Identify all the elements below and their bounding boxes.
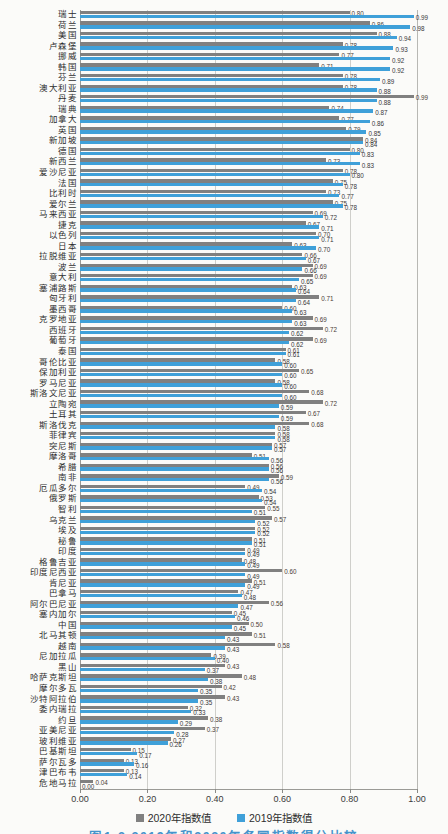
bar-2019-value-label: 0.88 xyxy=(379,100,391,104)
bar-2020-value-label: 0.67 xyxy=(308,412,320,416)
bar-2019 xyxy=(80,236,319,239)
country-label: 塞浦路斯 xyxy=(2,285,77,292)
bar-2019-value-label: 0.38 xyxy=(210,679,222,683)
bar-2019 xyxy=(80,46,393,49)
country-label: 乌克兰 xyxy=(2,517,77,524)
bar-2019 xyxy=(80,246,316,249)
country-label: 委内瑞拉 xyxy=(2,706,77,713)
chart-row: 巴拿马0.470.48 xyxy=(80,589,417,600)
bar-2019 xyxy=(80,636,225,639)
country-label: 斯洛伐克 xyxy=(2,422,77,429)
bar-2020-value-label: 0.04 xyxy=(95,780,107,784)
country-label: 墨西哥 xyxy=(2,306,77,313)
country-label: 阿尔巴尼亚 xyxy=(2,601,77,608)
chart-row: 意大利0.690.65 xyxy=(80,273,417,284)
chart-row: 马来西亚0.690.72 xyxy=(80,210,417,221)
bar-2019 xyxy=(80,130,366,133)
bar-2019-value-label: 0.99 xyxy=(416,16,428,20)
bar-2019-value-label: 0.60 xyxy=(284,395,296,399)
chart-row: 爱沙尼亚0.780.80 xyxy=(80,168,417,179)
bar-2019 xyxy=(80,404,279,407)
country-label: 新加坡 xyxy=(2,137,77,144)
bar-2020-value-label: 0.71 xyxy=(321,296,333,300)
bar-2019 xyxy=(80,720,178,723)
bar-2019 xyxy=(80,109,373,112)
bar-2019 xyxy=(80,657,215,660)
bar-2020-value-label: 0.57 xyxy=(274,517,286,521)
chart-row: 斯洛文尼亚0.680.60 xyxy=(80,389,417,400)
x-tick xyxy=(282,789,283,793)
bar-2019 xyxy=(80,99,377,102)
bar-2019 xyxy=(80,383,282,386)
bar-2019 xyxy=(80,583,245,586)
country-label: 约旦 xyxy=(2,717,77,724)
chart-row: 黑山0.430.37 xyxy=(80,663,417,674)
gridline-1.00 xyxy=(417,10,418,789)
country-label: 泰国 xyxy=(2,348,77,355)
bar-2019-value-label: 0.87 xyxy=(375,111,387,115)
bar-2020-value-label: 0.68 xyxy=(311,422,323,426)
chart-row: 俄罗斯0.530.54 xyxy=(80,494,417,505)
bar-2020-value-label: 0.68 xyxy=(311,391,323,395)
bar-2019 xyxy=(80,162,360,165)
chart-row: 亚美尼亚0.370.28 xyxy=(80,726,417,737)
bar-2019 xyxy=(80,415,279,418)
chart-row: 泰国0.610.61 xyxy=(80,347,417,358)
bar-2019 xyxy=(80,478,269,481)
x-tick xyxy=(215,789,216,793)
country-label: 罗马尼亚 xyxy=(2,380,77,387)
bar-2019 xyxy=(80,288,296,291)
bar-2019 xyxy=(80,773,127,776)
country-label: 印度 xyxy=(2,548,77,555)
chart-row: 斯洛伐克0.680.58 xyxy=(80,421,417,432)
country-label: 希腊 xyxy=(2,464,77,471)
bar-2019 xyxy=(80,646,225,649)
bar-2019-value-label: 0.83 xyxy=(362,153,374,157)
chart-row: 北马其顿0.510.43 xyxy=(80,631,417,642)
chart-row: 印度尼西亚0.600.49 xyxy=(80,568,417,579)
country-label: 克罗地亚 xyxy=(2,316,77,323)
bar-2019 xyxy=(80,615,235,618)
chart-row: 越南0.580.43 xyxy=(80,642,417,653)
chart-row: 墨西哥0.600.63 xyxy=(80,305,417,316)
country-label: 意大利 xyxy=(2,274,77,281)
country-label: 芬兰 xyxy=(2,74,77,81)
chart-row: 希腊0.560.56 xyxy=(80,463,417,474)
country-label: 埃及 xyxy=(2,527,77,534)
chart-row: 乌克兰0.570.52 xyxy=(80,516,417,527)
country-label: 尼加拉瓜 xyxy=(2,653,77,660)
bar-2019-value-label: 0.14 xyxy=(129,774,141,778)
chart-row: 加拿大0.770.86 xyxy=(80,115,417,126)
country-label: 越南 xyxy=(2,643,77,650)
x-tick xyxy=(417,789,418,793)
bar-2019 xyxy=(80,67,390,70)
country-label: 澳大利亚 xyxy=(2,85,77,92)
chart-row: 突尼斯0.570.57 xyxy=(80,442,417,453)
bar-2020-value-label: 0.72 xyxy=(325,328,337,332)
bar-2019-value-label: 0.70 xyxy=(318,248,330,252)
bar-2019-value-label: 0.78 xyxy=(345,205,357,209)
bar-2019 xyxy=(80,678,208,681)
bar-2020-value-label: 0.48 xyxy=(244,675,256,679)
bar-2019 xyxy=(80,394,282,397)
country-label: 印度尼西亚 xyxy=(2,569,77,576)
country-label: 西班牙 xyxy=(2,327,77,334)
bar-2019-value-label: 0.86 xyxy=(372,121,384,125)
chart-row: 瑞士0.800.99 xyxy=(80,10,417,21)
bar-2019-value-label: 0.98 xyxy=(412,26,424,30)
country-label: 菲律宾 xyxy=(2,432,77,439)
chart-row: 哈萨克斯坦0.480.38 xyxy=(80,673,417,684)
chart-row: 德国0.800.83 xyxy=(80,147,417,158)
chart-row: 阿尔巴尼亚0.560.47 xyxy=(80,600,417,611)
bar-2019 xyxy=(80,78,380,81)
x-tick xyxy=(147,789,148,793)
chart-row: 厄瓜多尔0.490.54 xyxy=(80,484,417,495)
bar-2019 xyxy=(80,425,275,428)
bar-2019 xyxy=(80,762,134,765)
chart-row: 卢森堡0.780.93 xyxy=(80,42,417,53)
country-label: 韩国 xyxy=(2,64,77,71)
country-label: 津巴布韦 xyxy=(2,769,77,776)
chart-row: 新西兰0.730.83 xyxy=(80,157,417,168)
country-label: 波兰 xyxy=(2,264,77,271)
bar-2019-value-label: 0.56 xyxy=(271,479,283,483)
